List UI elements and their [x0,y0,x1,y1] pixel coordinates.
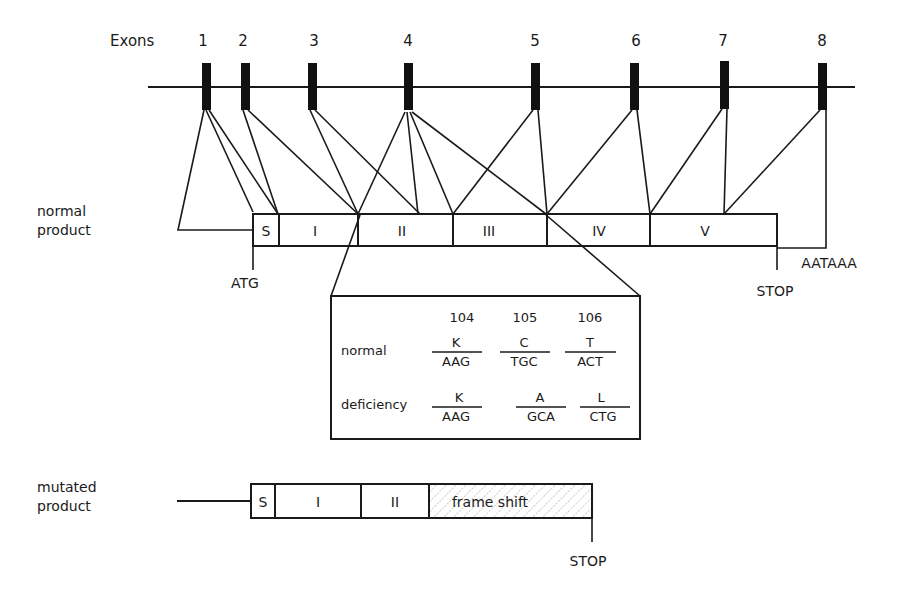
exon-block-8 [818,63,827,110]
codon: AAG [442,409,470,424]
segment-iv: IV [592,223,606,239]
exons-label: Exons [110,32,155,50]
exon-blocks [202,61,827,110]
segment-i: I [313,223,317,239]
exon-number-8: 8 [817,32,827,50]
codon: CTG [589,409,616,424]
codon: AAG [442,354,470,369]
codon: GCA [527,409,555,424]
segment-v: V [700,223,710,239]
segment-s: S [262,223,271,239]
codon: ACT [577,354,603,369]
normal-product-label-line1: normal [37,203,86,219]
exon-number-2: 2 [238,32,248,50]
exon-numbers: 1 2 3 4 5 6 7 8 [198,32,827,50]
mutated-product-label-line2: product [37,498,91,514]
amino-acid: L [597,390,605,405]
exon-block-7 [720,61,729,109]
mutated-segment-ii: II [391,494,399,510]
codon-positions: 104 105 106 [450,310,603,325]
polya-label: AATAAA [801,255,857,271]
mutated-stop-label: STOP [570,553,607,569]
segment-ii: II [398,223,406,239]
mutated-product-bar: S I II frame shift [251,484,592,518]
amino-acid: A [536,390,545,405]
mutated-segment-s: S [259,494,268,510]
exon-number-3: 3 [309,32,319,50]
exon-block-3 [308,63,317,110]
frameshift-label: frame shift [452,494,529,510]
stop-label: STOP [757,283,794,299]
normal-product-bar: S I II III IV V [253,214,777,246]
mutated-product-label-line1: mutated [37,479,97,495]
normal-product-outline [253,214,777,246]
exon-block-5 [531,63,540,110]
segment-iii: III [483,223,495,239]
amino-acid: C [519,335,528,350]
position-104: 104 [450,310,475,325]
atg-label: ATG [231,275,259,291]
normal-product-label-line2: product [37,222,91,238]
codon: TGC [509,354,537,369]
exon-block-1 [202,63,211,110]
row-label-deficiency: deficiency [341,397,408,412]
exon-number-6: 6 [631,32,641,50]
position-106: 106 [578,310,603,325]
position-105: 105 [513,310,538,325]
amino-acid: K [455,390,464,405]
amino-acid: K [452,335,461,350]
amino-acid: T [585,335,594,350]
row-label-normal: normal [341,343,387,358]
mutated-segment-i: I [316,494,320,510]
exon-number-7: 7 [718,32,728,50]
exon-block-6 [630,63,639,110]
exon-number-4: 4 [403,32,413,50]
exon-block-2 [241,63,250,110]
diagram-canvas: Exons 1 2 3 4 5 6 7 8 [0,0,900,598]
exon-number-5: 5 [530,32,540,50]
exon-number-1: 1 [198,32,208,50]
exon-block-4 [404,63,413,110]
